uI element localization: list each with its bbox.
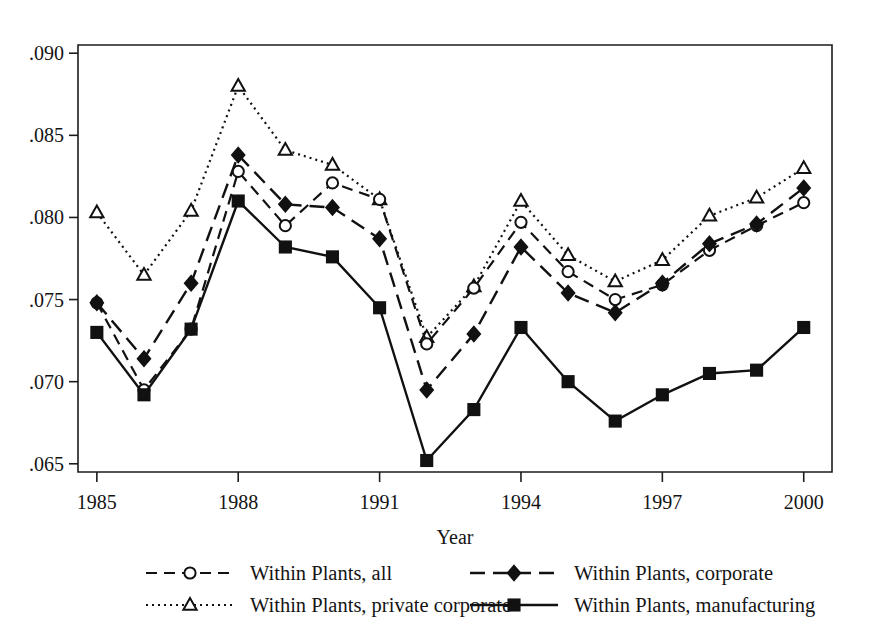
marker-filled-square <box>327 251 339 263</box>
marker-filled-square <box>609 415 621 427</box>
x-tick-label: 1997 <box>642 491 682 513</box>
series-line <box>97 155 804 390</box>
marker-filled-diamond <box>373 231 386 246</box>
x-tick-label: 1985 <box>77 491 117 513</box>
marker-open-circle <box>327 177 338 188</box>
marker-filled-square <box>562 376 574 388</box>
plot-frame <box>78 45 832 472</box>
legend: Within Plants, allWithin Plants, corpora… <box>146 562 815 617</box>
marker-filled-diamond <box>609 305 622 320</box>
marker-filled-square <box>138 389 150 401</box>
marker-open-triangle <box>90 206 103 218</box>
x-axis-title: Year <box>437 526 474 548</box>
marker-open-triangle <box>561 248 574 260</box>
marker-open-circle <box>798 197 809 208</box>
marker-filled-diamond <box>797 180 810 195</box>
marker-open-circle <box>563 266 574 277</box>
legend-item[interactable]: Within Plants, private corporate <box>146 594 511 617</box>
marker-open-circle <box>280 220 291 231</box>
series-line <box>97 171 804 389</box>
legend-item-label: Within Plants, all <box>250 562 392 584</box>
marker-open-triangle <box>183 598 196 610</box>
marker-open-triangle <box>797 161 810 173</box>
legend-item-label: Within Plants, manufacturing <box>574 594 815 617</box>
marker-open-circle <box>374 194 385 205</box>
marker-open-triangle <box>279 143 292 155</box>
marker-open-circle <box>421 338 432 349</box>
marker-open-triangle <box>184 204 197 216</box>
marker-filled-square <box>468 404 480 416</box>
series-filled-square <box>91 195 809 466</box>
series-line <box>97 201 804 460</box>
x-tick-label: 2000 <box>784 491 824 513</box>
marker-open-circle <box>184 567 195 578</box>
marker-open-triangle <box>609 274 622 286</box>
marker-open-circle <box>610 294 621 305</box>
x-tick-label: 1988 <box>218 491 258 513</box>
marker-filled-square <box>515 322 527 334</box>
marker-open-triangle <box>656 253 669 265</box>
marker-filled-square <box>374 302 386 314</box>
y-tick-label: .080 <box>29 206 64 228</box>
y-tick-label: .085 <box>29 124 64 146</box>
marker-filled-diamond <box>185 276 198 291</box>
y-tick-label: .090 <box>29 42 64 64</box>
y-tick-label: .070 <box>29 371 64 393</box>
series-filled-diamond <box>90 147 810 397</box>
marker-open-triangle <box>232 79 245 91</box>
marker-open-triangle <box>750 191 763 203</box>
legend-item[interactable]: Within Plants, all <box>146 562 392 584</box>
marker-filled-square <box>421 455 433 467</box>
marker-filled-square <box>657 389 669 401</box>
marker-open-triangle <box>514 194 527 206</box>
y-tick-label: .075 <box>29 289 64 311</box>
marker-open-circle <box>515 217 526 228</box>
marker-open-circle <box>468 282 479 293</box>
marker-filled-square <box>232 195 244 207</box>
marker-filled-diamond <box>507 565 520 580</box>
line-chart: .065.070.075.080.085.0901985198819911994… <box>0 0 896 644</box>
chart-figure: .065.070.075.080.085.0901985198819911994… <box>0 0 896 644</box>
x-tick-label: 1991 <box>360 491 400 513</box>
marker-filled-diamond <box>326 200 339 215</box>
legend-item[interactable]: Within Plants, manufacturing <box>470 594 815 617</box>
marker-filled-square <box>751 364 763 376</box>
series-open-circle <box>91 166 809 396</box>
legend-item[interactable]: Within Plants, corporate <box>470 562 773 585</box>
marker-filled-square <box>798 322 810 334</box>
marker-filled-square <box>185 323 197 335</box>
legend-item-label: Within Plants, corporate <box>574 562 773 585</box>
marker-filled-square <box>91 327 103 339</box>
y-tick-label: .065 <box>29 453 64 475</box>
marker-filled-square <box>280 241 292 253</box>
marker-filled-square <box>508 599 520 611</box>
x-tick-label: 1994 <box>501 491 541 513</box>
marker-filled-square <box>704 368 716 380</box>
